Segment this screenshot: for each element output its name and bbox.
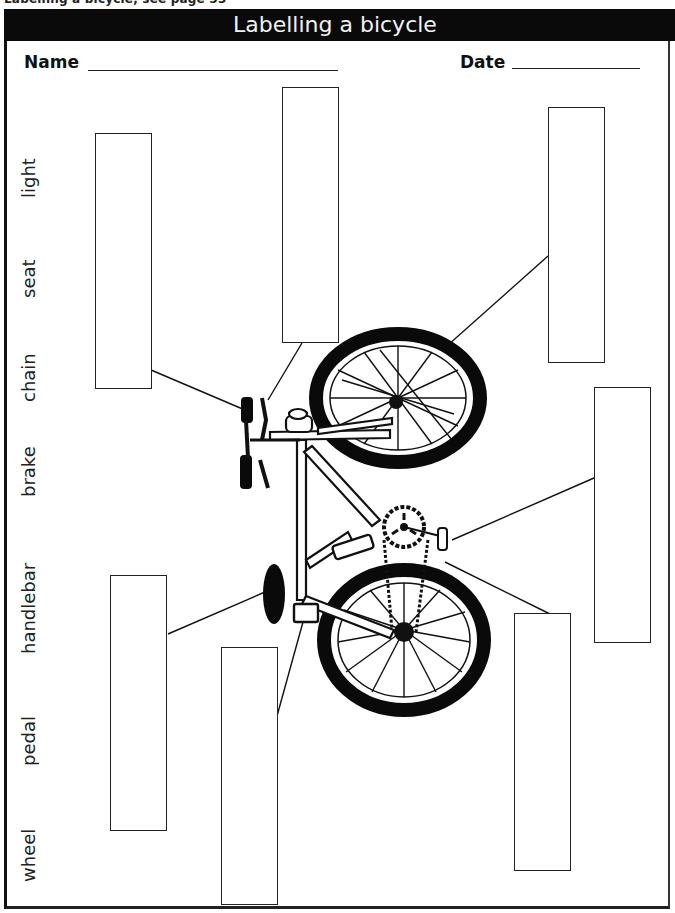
front-wheel xyxy=(316,334,480,462)
rear-wheel xyxy=(324,570,484,710)
label-box-brake[interactable] xyxy=(282,87,339,343)
light xyxy=(286,409,312,432)
chain xyxy=(384,540,428,632)
label-box-light[interactable] xyxy=(221,647,278,905)
seat xyxy=(263,564,285,624)
label-box-wheel[interactable] xyxy=(548,107,605,363)
bike-frame xyxy=(270,418,394,638)
label-box-seat[interactable] xyxy=(110,575,167,831)
label-box-chain[interactable] xyxy=(514,613,571,871)
label-box-pedal[interactable] xyxy=(594,387,651,643)
label-box-handlebar[interactable] xyxy=(95,133,152,389)
